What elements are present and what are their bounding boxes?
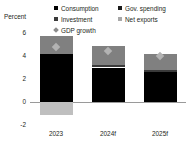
bar-group — [40, 33, 73, 125]
stacked-bar-chart: Consumption Investment GDP growth Gov. s… — [0, 0, 188, 152]
square-marker-darkgray — [54, 17, 58, 21]
x-axis-labels: 20232024f2025f — [30, 130, 186, 142]
bar-segment[interactable] — [144, 72, 177, 102]
legend-item-label: Investment — [61, 16, 92, 23]
y-axis-tick-label: 2 — [0, 75, 26, 82]
square-marker-gray — [118, 6, 122, 10]
legend-item-gov-spending[interactable]: Gov. spending — [118, 3, 188, 13]
bar-segment[interactable] — [92, 68, 125, 103]
legend-column-left: Consumption Investment GDP growth — [54, 3, 118, 36]
x-axis-tick-label: 2023 — [30, 130, 82, 137]
legend-item-label: Net exports — [125, 16, 158, 23]
bar-segment[interactable] — [144, 70, 177, 72]
square-marker-lightgray — [118, 17, 122, 21]
x-axis-tick-label: 2024f — [82, 130, 134, 137]
legend-item-investment[interactable]: Investment — [54, 14, 118, 24]
square-marker-black — [54, 6, 58, 10]
bar-segment[interactable] — [92, 65, 125, 67]
chart-legend: Consumption Investment GDP growth Gov. s… — [54, 3, 188, 35]
diamond-marker-gray — [53, 27, 59, 33]
legend-item-consumption[interactable]: Consumption — [54, 3, 118, 13]
bar-group — [144, 33, 177, 125]
legend-column-right: Gov. spending Net exports — [118, 3, 188, 25]
y-axis-title: Percent — [4, 13, 26, 20]
y-axis-tick-label: -2 — [0, 121, 26, 128]
legend-item-label: Consumption — [61, 5, 99, 12]
bar-segment[interactable] — [40, 54, 73, 102]
legend-item-label: Gov. spending — [125, 5, 166, 12]
y-axis-tick-label: 6 — [0, 29, 26, 36]
y-axis-tick-label: 0 — [0, 98, 26, 105]
x-axis-tick-label: 2025f — [134, 130, 186, 137]
plot-area — [30, 33, 186, 125]
bar-group — [92, 33, 125, 125]
legend-item-net-exports[interactable]: Net exports — [118, 14, 188, 24]
y-axis-tick-label: 4 — [0, 52, 26, 59]
bar-segment[interactable] — [40, 102, 73, 115]
